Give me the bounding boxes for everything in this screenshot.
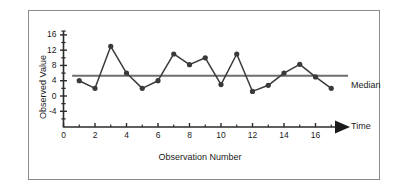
data-point-marker (92, 86, 97, 91)
data-point-marker (171, 51, 176, 56)
x-axis-arrow-icon (335, 121, 350, 134)
data-series-line (79, 46, 331, 91)
x-axis-tick-label: 6 (151, 130, 165, 140)
data-point-marker (329, 86, 334, 91)
series-polyline (79, 46, 331, 91)
data-point-marker (124, 70, 129, 75)
y-axis-tick-label: 16 (39, 29, 57, 39)
data-point-marker (281, 70, 286, 75)
data-point-marker (250, 89, 255, 94)
run-chart-plot (0, 0, 408, 191)
x-axis-tick-label: 12 (246, 130, 260, 140)
data-point-markers (77, 44, 334, 94)
y-axis-tick-label: 4 (39, 75, 57, 85)
data-point-marker (77, 78, 82, 83)
data-point-marker (155, 78, 160, 83)
y-axis-tick-label: 8 (39, 60, 57, 70)
x-axis-tick-label: 4 (120, 130, 134, 140)
data-point-marker (218, 82, 223, 87)
x-axis-tick-label: 10 (214, 130, 228, 140)
data-point-marker (140, 86, 145, 91)
data-point-marker (234, 51, 239, 56)
data-point-marker (187, 62, 192, 67)
x-axis-tick-label: 14 (277, 130, 291, 140)
data-point-marker (203, 55, 208, 60)
y-axis-tick-label: 12 (39, 45, 57, 55)
y-axis-tick-label: -4 (39, 106, 57, 116)
x-axis-tick-label: 0 (57, 130, 71, 140)
data-point-marker (297, 62, 302, 67)
data-point-marker (266, 83, 271, 88)
figure-canvas: Observed Value Observation Number Time M… (0, 0, 408, 191)
y-axis-tick-label: 0 (39, 91, 57, 101)
x-axis-tick-label: 2 (88, 130, 102, 140)
data-point-marker (108, 44, 113, 49)
x-axis-tick-label: 16 (309, 130, 323, 140)
data-point-marker (313, 74, 318, 79)
x-axis-tick-label: 8 (183, 130, 197, 140)
axes-group (64, 31, 351, 134)
